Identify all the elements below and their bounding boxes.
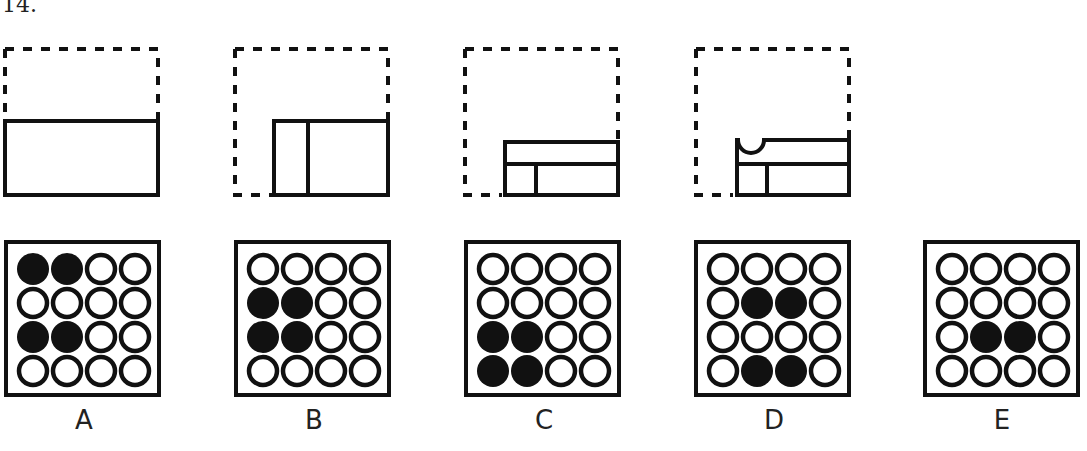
empty-hole-dot	[87, 289, 115, 317]
empty-hole-dot	[811, 323, 839, 351]
empty-hole-dot	[581, 357, 609, 385]
empty-hole-dot	[547, 255, 575, 283]
empty-hole-dot	[777, 323, 805, 351]
filled-hole-dot	[477, 321, 509, 353]
empty-hole-dot	[777, 255, 805, 283]
option-a[interactable]	[6, 242, 159, 395]
empty-hole-dot	[1006, 289, 1034, 317]
empty-hole-dot	[121, 323, 149, 351]
option-c[interactable]	[466, 242, 619, 395]
filled-hole-dot	[51, 253, 83, 285]
empty-hole-dot	[811, 289, 839, 317]
filled-hole-dot	[511, 321, 543, 353]
empty-hole-dot	[972, 255, 1000, 283]
empty-hole-dot	[121, 289, 149, 317]
empty-hole-dot	[19, 357, 47, 385]
filled-hole-dot	[477, 355, 509, 387]
filled-hole-dot	[511, 355, 543, 387]
filled-hole-dot	[281, 287, 313, 319]
option-label-c: C	[514, 405, 574, 435]
filled-hole-dot	[775, 287, 807, 319]
empty-hole-dot	[1040, 255, 1068, 283]
empty-hole-dot	[972, 357, 1000, 385]
filled-hole-dot	[970, 321, 1002, 353]
empty-hole-dot	[351, 255, 379, 283]
empty-hole-dot	[351, 289, 379, 317]
fold-step-1	[5, 49, 158, 195]
empty-hole-dot	[547, 289, 575, 317]
filled-hole-dot	[741, 355, 773, 387]
option-label-e: E	[972, 405, 1032, 435]
filled-hole-dot	[1004, 321, 1036, 353]
empty-hole-dot	[1006, 357, 1034, 385]
empty-hole-dot	[351, 357, 379, 385]
filled-hole-dot	[247, 287, 279, 319]
empty-hole-dot	[1040, 357, 1068, 385]
empty-hole-dot	[709, 357, 737, 385]
empty-hole-dot	[1040, 289, 1068, 317]
empty-hole-dot	[479, 289, 507, 317]
empty-hole-dot	[581, 255, 609, 283]
filled-hole-dot	[51, 321, 83, 353]
filled-hole-dot	[17, 321, 49, 353]
filled-hole-dot	[281, 321, 313, 353]
empty-hole-dot	[581, 289, 609, 317]
option-label-b: B	[284, 405, 344, 435]
option-d[interactable]	[696, 242, 849, 395]
empty-hole-dot	[53, 289, 81, 317]
filled-hole-dot	[17, 253, 49, 285]
fold-step-3	[465, 49, 618, 195]
puzzle-diagram	[0, 0, 1087, 451]
empty-hole-dot	[1040, 323, 1068, 351]
empty-hole-dot	[513, 255, 541, 283]
empty-hole-dot	[479, 255, 507, 283]
empty-hole-dot	[87, 255, 115, 283]
empty-hole-dot	[547, 357, 575, 385]
empty-hole-dot	[351, 323, 379, 351]
filled-hole-dot	[741, 287, 773, 319]
empty-hole-dot	[811, 357, 839, 385]
empty-hole-dot	[743, 255, 771, 283]
empty-hole-dot	[317, 323, 345, 351]
empty-hole-dot	[283, 357, 311, 385]
empty-hole-dot	[317, 357, 345, 385]
empty-hole-dot	[249, 255, 277, 283]
empty-hole-dot	[743, 323, 771, 351]
empty-hole-dot	[121, 357, 149, 385]
empty-hole-dot	[581, 323, 609, 351]
empty-hole-dot	[317, 255, 345, 283]
empty-hole-dot	[938, 255, 966, 283]
filled-hole-dot	[247, 321, 279, 353]
fold-step-2	[235, 49, 388, 195]
option-label-d: D	[744, 405, 804, 435]
empty-hole-dot	[87, 323, 115, 351]
empty-hole-dot	[811, 255, 839, 283]
filled-hole-dot	[775, 355, 807, 387]
empty-hole-dot	[938, 323, 966, 351]
empty-hole-dot	[121, 255, 149, 283]
option-b[interactable]	[236, 242, 389, 395]
empty-hole-dot	[19, 289, 47, 317]
empty-hole-dot	[709, 255, 737, 283]
empty-hole-dot	[709, 289, 737, 317]
empty-hole-dot	[53, 357, 81, 385]
empty-hole-dot	[87, 357, 115, 385]
empty-hole-dot	[972, 289, 1000, 317]
empty-hole-dot	[938, 289, 966, 317]
empty-hole-dot	[1006, 255, 1034, 283]
option-label-a: A	[54, 405, 114, 435]
fold-step-4	[696, 49, 849, 195]
empty-hole-dot	[317, 289, 345, 317]
empty-hole-dot	[709, 323, 737, 351]
empty-hole-dot	[283, 255, 311, 283]
empty-hole-dot	[249, 357, 277, 385]
option-e[interactable]	[925, 242, 1078, 395]
empty-hole-dot	[547, 323, 575, 351]
empty-hole-dot	[938, 357, 966, 385]
empty-hole-dot	[513, 289, 541, 317]
